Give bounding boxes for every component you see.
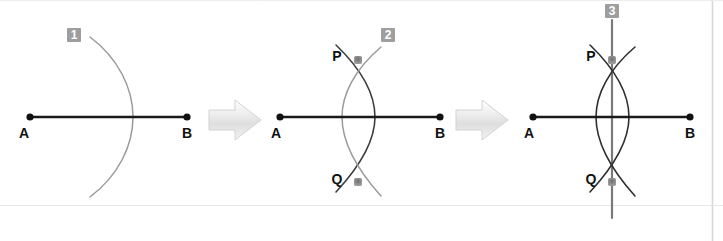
step-badge-3-text: 3 bbox=[609, 4, 616, 18]
point-a-dot bbox=[276, 113, 283, 120]
point-a-dot bbox=[26, 113, 33, 120]
point-b-dot bbox=[436, 113, 443, 120]
construction-diagram: A B 1 A B bbox=[0, 0, 723, 241]
step-badge-1: 1 bbox=[67, 28, 81, 42]
step-badge-2: 2 bbox=[381, 28, 395, 42]
perpendicular-bisector-figure: A B 1 A B bbox=[0, 0, 723, 241]
point-p-dot bbox=[608, 56, 616, 64]
point-b-dot bbox=[183, 113, 190, 120]
point-p-dot bbox=[354, 56, 362, 64]
point-b-label: B bbox=[182, 125, 192, 141]
point-q-label: Q bbox=[332, 171, 343, 187]
point-p-label: P bbox=[332, 48, 341, 64]
point-p-label: P bbox=[586, 48, 595, 64]
point-a-label: A bbox=[524, 125, 534, 141]
point-q-label: Q bbox=[586, 171, 597, 187]
step-badge-1-text: 1 bbox=[71, 28, 78, 42]
point-a-label: A bbox=[19, 125, 29, 141]
point-b-dot bbox=[686, 113, 693, 120]
point-b-label: B bbox=[435, 125, 445, 141]
step-2-panel: A B P Q 2 bbox=[271, 28, 445, 196]
step-badge-2-text: 2 bbox=[385, 28, 392, 42]
point-a-label: A bbox=[271, 125, 281, 141]
step-arrow-2-to-3 bbox=[456, 100, 508, 140]
step-badge-3: 3 bbox=[605, 4, 619, 18]
step-arrow-1-to-2 bbox=[209, 100, 261, 140]
point-q-dot bbox=[608, 178, 616, 186]
point-q-dot bbox=[354, 178, 362, 186]
point-a-dot bbox=[529, 113, 536, 120]
step-1-panel: A B 1 bbox=[19, 28, 192, 197]
point-b-label: B bbox=[685, 125, 695, 141]
step-3-panel: A B P Q 3 bbox=[524, 4, 695, 218]
